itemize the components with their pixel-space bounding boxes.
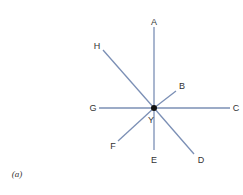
- radial-diagram: ABCDEFGH Y (a): [0, 0, 243, 195]
- ray-d: [154, 108, 194, 154]
- ray-h: [103, 50, 154, 108]
- center-point-y: [151, 105, 157, 111]
- label-g: G: [89, 103, 96, 113]
- label-h: H: [94, 41, 101, 51]
- label-e: E: [151, 155, 157, 165]
- label-c: C: [233, 103, 240, 113]
- ray-b: [154, 91, 176, 108]
- label-a: A: [151, 17, 157, 27]
- label-d: D: [198, 155, 205, 165]
- figure-caption: (a): [12, 169, 23, 179]
- label-b: B: [179, 81, 185, 91]
- center-label: Y: [148, 115, 154, 125]
- label-f: F: [110, 141, 116, 151]
